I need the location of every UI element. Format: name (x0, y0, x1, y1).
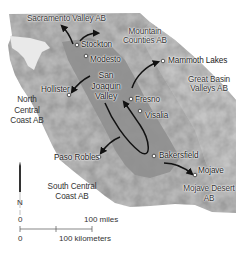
city-marker-stockton (75, 43, 79, 47)
city-label-paso-robles: Paso Robles (54, 153, 99, 162)
city-label-hollister: Hollister (41, 85, 70, 94)
city-label-stockton: Stockton (81, 40, 112, 49)
scale-km-label: 100 kilometers (59, 234, 111, 243)
north-arrow-label: N (17, 198, 23, 207)
basin-label-great-basin-valleys: Great Basin Valleys AB (180, 75, 238, 93)
basin-label-north-central-coast: North Central Coast AB (5, 95, 49, 127)
scale-km-zero: 0 (18, 234, 22, 243)
scale-miles-label: 100 miles (84, 215, 118, 224)
scale-miles-zero: 0 (18, 215, 22, 224)
basin-label-sacramento-valley: Sacramento Valley AB (27, 14, 106, 23)
city-label-mojave: Mojave (198, 166, 224, 175)
city-marker-modesto (84, 54, 88, 58)
city-label-visalia: Visalia (145, 111, 168, 120)
basin-label-mountain-counties: Mountain Counties AB (116, 27, 174, 45)
city-label-modesto: Modesto (90, 55, 121, 64)
city-marker-bakersfield (152, 154, 156, 158)
city-marker-visalia (138, 109, 142, 113)
scale-bar (20, 226, 92, 232)
basin-label-south-central-coast: South Central Coast AB (40, 182, 104, 202)
city-marker-mojave (193, 173, 197, 177)
city-marker-fresno (129, 97, 133, 101)
city-label-mammoth-lakes: Mammoth Lakes (168, 56, 227, 65)
city-label-fresno: Fresno (135, 95, 160, 104)
basin-label-mojave-desert: Mojave Desert AB (180, 184, 238, 204)
valley-label-san-joaquin: San Joaquin Valley (86, 70, 126, 102)
city-marker-mammoth-lakes (161, 59, 165, 63)
north-arrow-icon (19, 162, 21, 215)
city-label-bakersfield: Bakersfield (159, 151, 198, 160)
